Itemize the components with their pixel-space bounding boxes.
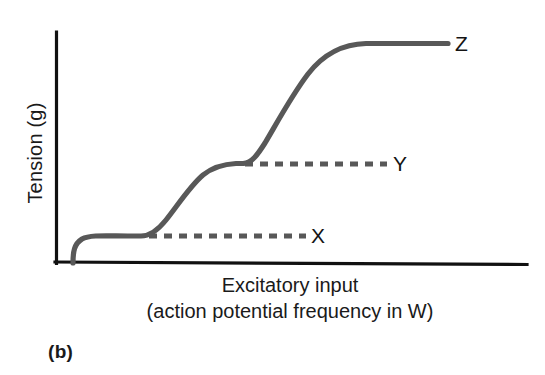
tension-response-curve [73, 44, 448, 264]
figure-panel-b: X Y Z Tension (g) Excitatory input (acti… [0, 0, 545, 375]
panel-caption: (b) [48, 341, 73, 363]
plateau-label-x: X [311, 224, 325, 247]
x-axis-title-line-1: Excitatory input [55, 272, 525, 298]
x-axis-title-line-2: (action potential frequency in W) [55, 298, 525, 324]
plateau-label-y: Y [393, 152, 407, 175]
x-axis-line [55, 262, 527, 265]
y-axis-title: Tension (g) [22, 38, 48, 268]
plateau-label-z: Z [455, 32, 468, 55]
x-axis-title: Excitatory input (action potential frequ… [55, 272, 525, 324]
